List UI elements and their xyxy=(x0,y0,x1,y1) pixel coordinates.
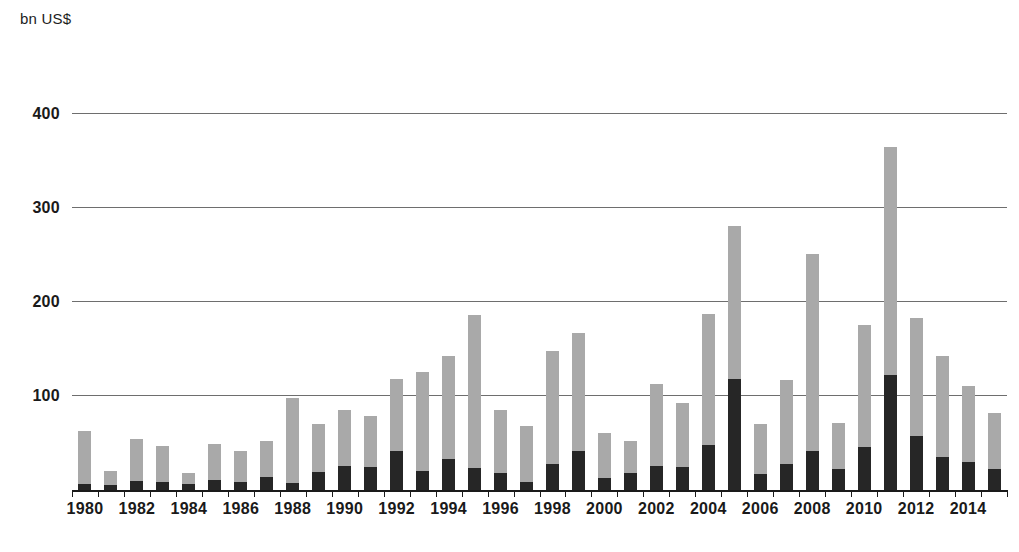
bar-segment-light-2003 xyxy=(676,403,689,467)
x-axis-tick xyxy=(591,490,592,497)
bar-2002 xyxy=(650,384,663,490)
x-axis-tick xyxy=(721,490,722,497)
x-tick-label-1980: 1980 xyxy=(67,500,104,518)
x-axis-tick xyxy=(358,490,359,497)
bar-1985 xyxy=(208,444,221,490)
x-tick-label-1996: 1996 xyxy=(482,500,519,518)
bar-segment-light-1992 xyxy=(390,379,403,451)
x-tick-label-1994: 1994 xyxy=(430,500,467,518)
bar-segment-dark-1994 xyxy=(442,459,455,490)
bar-segment-light-1987 xyxy=(260,441,273,477)
x-tick-label-2002: 2002 xyxy=(638,500,675,518)
x-axis-tick xyxy=(565,490,566,497)
bar-1987 xyxy=(260,441,273,490)
bar-segment-dark-1985 xyxy=(208,480,221,490)
bar-segment-light-2014 xyxy=(962,386,975,462)
bar-segment-light-1986 xyxy=(234,451,247,482)
x-axis-tick xyxy=(306,490,307,497)
x-axis-tick xyxy=(202,490,203,497)
bar-segment-dark-1988 xyxy=(286,483,299,490)
y-tick-label-300: 300 xyxy=(14,199,60,217)
bar-segment-light-2000 xyxy=(598,433,611,478)
bar-segment-light-1994 xyxy=(442,356,455,459)
bar-segment-dark-1990 xyxy=(338,466,351,490)
bar-segment-dark-1982 xyxy=(130,481,143,490)
bar-1996 xyxy=(494,410,507,490)
bar-segment-dark-1986 xyxy=(234,482,247,490)
bar-segment-light-1993 xyxy=(416,372,429,471)
x-tick-label-1992: 1992 xyxy=(378,500,415,518)
bar-segment-dark-2005 xyxy=(728,379,741,490)
bar-segment-dark-1993 xyxy=(416,471,429,490)
x-axis-tick xyxy=(825,490,826,497)
bar-segment-light-1997 xyxy=(520,426,533,481)
bar-1998 xyxy=(546,351,559,490)
bar-segment-dark-2010 xyxy=(858,447,871,490)
bar-1993 xyxy=(416,372,429,490)
bars-container xyxy=(72,95,1007,490)
bar-segment-light-1991 xyxy=(364,416,377,468)
bar-segment-dark-2002 xyxy=(650,466,663,490)
bar-segment-dark-2004 xyxy=(702,445,715,490)
x-tick-label-2014: 2014 xyxy=(950,500,987,518)
x-axis-tick xyxy=(436,490,437,497)
bar-2001 xyxy=(624,441,637,490)
bar-2003 xyxy=(676,403,689,490)
bar-segment-dark-1998 xyxy=(546,464,559,490)
bar-2014 xyxy=(962,386,975,490)
bar-segment-dark-2003 xyxy=(676,467,689,491)
x-tick-label-2000: 2000 xyxy=(586,500,623,518)
bar-1994 xyxy=(442,356,455,490)
x-axis-tick xyxy=(747,490,748,497)
bar-segment-light-2007 xyxy=(780,380,793,464)
bar-segment-light-1989 xyxy=(312,424,325,472)
x-axis-tick xyxy=(280,490,281,497)
bar-2004 xyxy=(702,314,715,490)
x-axis-tick xyxy=(877,490,878,497)
bar-segment-light-2013 xyxy=(936,356,949,457)
x-axis-tick xyxy=(617,490,618,497)
bar-segment-light-1998 xyxy=(546,351,559,464)
x-axis-tick xyxy=(981,490,982,497)
x-tick-label-2012: 2012 xyxy=(898,500,935,518)
bar-segment-light-2006 xyxy=(754,424,767,474)
bar-2005 xyxy=(728,226,741,490)
x-tick-label-2004: 2004 xyxy=(690,500,727,518)
x-axis-tick xyxy=(903,490,904,497)
bar-segment-dark-1992 xyxy=(390,451,403,490)
bar-2007 xyxy=(780,380,793,490)
x-tick-label-2010: 2010 xyxy=(846,500,883,518)
x-axis-tick xyxy=(799,490,800,497)
x-axis-tick xyxy=(488,490,489,497)
bar-segment-dark-2008 xyxy=(806,451,819,491)
bar-segment-dark-1991 xyxy=(364,467,377,490)
x-axis-ticks xyxy=(72,490,1007,498)
y-axis-tick-labels: 100200300400 xyxy=(0,95,60,490)
bar-segment-light-2010 xyxy=(858,325,871,447)
bar-segment-dark-2001 xyxy=(624,473,637,490)
x-axis-tick xyxy=(669,490,670,497)
bar-2015 xyxy=(988,413,1001,490)
x-axis-tick xyxy=(773,490,774,497)
bar-chart: bn US$ 100200300400 19801982198419861988… xyxy=(0,0,1019,552)
x-axis-tick xyxy=(150,490,151,497)
x-axis-tick xyxy=(514,490,515,497)
x-axis-tick xyxy=(695,490,696,497)
x-axis-tick xyxy=(254,490,255,497)
bar-segment-light-1985 xyxy=(208,444,221,480)
bar-segment-dark-2009 xyxy=(832,469,845,490)
bar-segment-dark-1999 xyxy=(572,451,585,490)
x-axis-tick xyxy=(851,490,852,497)
x-tick-label-1988: 1988 xyxy=(274,500,311,518)
bar-segment-dark-2000 xyxy=(598,478,611,490)
bar-2008 xyxy=(806,254,819,490)
x-tick-label-1982: 1982 xyxy=(119,500,156,518)
bar-1995 xyxy=(468,315,481,490)
bar-segment-light-1999 xyxy=(572,333,585,452)
x-axis-tick xyxy=(124,490,125,497)
x-axis-tick xyxy=(540,490,541,497)
bar-1980 xyxy=(78,431,91,490)
x-tick-label-1990: 1990 xyxy=(326,500,363,518)
bar-segment-dark-2012 xyxy=(910,436,923,490)
bar-2012 xyxy=(910,318,923,490)
